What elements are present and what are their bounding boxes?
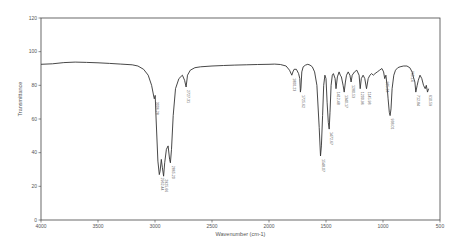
y-tick-label: 80 [31,82,37,88]
y-tick-label: 100 [29,48,38,54]
peak-label: 765.14 [410,71,414,82]
peak-label: 985.24 [385,82,389,93]
y-tick-label: 40 [31,149,37,155]
peak-label: 1280.53 [351,85,355,98]
peak-label: 1725.62 [301,95,305,108]
peak-label: 2925.66 [164,179,168,192]
peak-label: 2865.20 [171,166,175,179]
x-tick-label: 3500 [92,223,103,229]
axes [41,18,440,220]
peak-label: 2962.44 [160,178,164,191]
x-axis-label: Wavenumber (cm-1) [216,231,266,237]
y-tick-label: 0 [34,217,37,223]
x-tick-label: 1000 [377,223,388,229]
peak-label: 712.84 [416,95,420,106]
x-tick-label: 2000 [263,223,274,229]
peak-label: 1472.67 [329,132,333,145]
x-tick-label: 3000 [149,223,160,229]
y-tick-label: 60 [31,116,37,122]
peak-label: 3006.28 [155,102,159,115]
peak-label: 1412.48 [336,92,340,105]
axis-ticks: 4000350030002500200015001000500020406080… [29,15,445,229]
peak-label: 1548.07 [321,159,325,172]
y-tick-label: 120 [29,15,38,21]
peak-label: 1800.23 [292,78,296,91]
peak-label: 1145.98 [367,92,371,105]
y-tick-label: 20 [31,183,37,189]
peak-label: 1340.17 [344,95,348,108]
chart-canvas: 4000350030002500200015001000500020406080… [0,0,465,245]
peak-label: 2727.31 [186,90,190,103]
y-axis-label: Transmittance [17,82,23,117]
peak-label: 938.01 [390,119,394,130]
ir-spectrum-chart: 4000350030002500200015001000500020406080… [0,0,465,245]
peak-label: 1200.96 [360,92,364,105]
peak-labels: 3006.282962.442925.662865.202727.311800.… [155,71,432,193]
x-tick-label: 1500 [320,223,331,229]
x-tick-label: 2500 [206,223,217,229]
x-tick-label: 4000 [35,223,46,229]
peak-label: 610.59 [428,95,432,106]
plot-frame [41,18,440,220]
spectrum-trace [41,62,429,176]
x-tick-label: 500 [436,223,445,229]
